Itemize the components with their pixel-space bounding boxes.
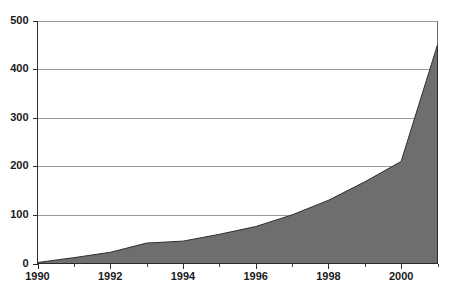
x-tick-label-1994: 1994 bbox=[171, 270, 196, 282]
area-chart: 0100200300400500 19901992199419961998200… bbox=[0, 0, 449, 291]
x-tick-label-1996: 1996 bbox=[243, 270, 267, 282]
y-tick-label-500: 500 bbox=[10, 14, 28, 26]
y-tick-label-200: 200 bbox=[10, 159, 28, 171]
y-tick-label-100: 100 bbox=[10, 208, 28, 220]
x-tick-label-2000: 2000 bbox=[389, 270, 413, 282]
chart-container: 0100200300400500 19901992199419961998200… bbox=[0, 0, 449, 291]
x-tick-label-1990: 1990 bbox=[25, 270, 49, 282]
y-tick-label-0: 0 bbox=[22, 257, 28, 269]
y-tick-label-300: 300 bbox=[10, 111, 28, 123]
x-tick-label-1992: 1992 bbox=[98, 270, 122, 282]
y-tick-label-400: 400 bbox=[10, 62, 28, 74]
x-tick-label-1998: 1998 bbox=[316, 270, 340, 282]
